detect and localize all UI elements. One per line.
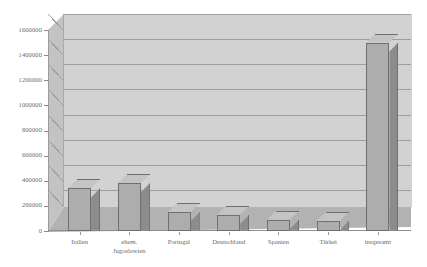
bar-front-face <box>366 43 389 231</box>
x-axis-tick <box>80 232 81 235</box>
y-axis-tick <box>44 80 49 81</box>
y-axis-tick-label: 1600000 <box>19 27 42 34</box>
gridline <box>63 140 411 141</box>
gridline <box>63 190 411 191</box>
gridline-connector <box>48 190 63 206</box>
bar-top-edge <box>375 34 398 35</box>
bar-top-edge <box>77 179 100 180</box>
y-axis-tick <box>44 105 49 106</box>
y-axis-tick-label: 0 <box>39 228 42 235</box>
x-axis-tick <box>378 232 379 235</box>
x-axis-tick <box>129 232 130 235</box>
bar-column <box>68 188 91 231</box>
y-axis-tick <box>44 30 49 31</box>
x-axis-tick-label: insgesamt <box>338 238 418 247</box>
y-axis-tick-label: 1200000 <box>19 77 42 84</box>
gridline <box>63 64 411 65</box>
gridline-connector <box>48 89 63 105</box>
bar-column <box>168 212 191 231</box>
gridline-connector <box>48 165 63 181</box>
gridline-connector <box>48 39 63 55</box>
y-axis-tick-label: 1000000 <box>19 102 42 109</box>
bar-chart: 0200000400000600000800000100000012000001… <box>0 0 427 267</box>
bar-front-face <box>317 221 340 231</box>
y-axis-tick-label: 600000 <box>22 152 42 159</box>
x-axis-labels: Italienehem.JugoslawienPortugalDeutschla… <box>48 234 411 264</box>
back-wall-panel <box>63 14 412 207</box>
bar-top-edge <box>276 211 299 212</box>
gridline <box>63 115 411 116</box>
y-axis-tick <box>44 231 49 232</box>
y-axis-tick <box>44 206 49 207</box>
bar-top-edge <box>226 206 249 207</box>
x-axis-tick <box>328 232 329 235</box>
y-axis-tick <box>44 55 49 56</box>
bar-top-edge <box>177 203 200 204</box>
gridline-connector <box>48 14 63 30</box>
bar-top-edge <box>326 212 349 213</box>
bar-front-face <box>68 188 91 231</box>
y-axis-tick <box>44 131 49 132</box>
bar-front-face <box>217 215 240 231</box>
bar-front-face <box>267 220 290 231</box>
x-axis-tick-label-line: insgesamt <box>338 238 418 247</box>
y-axis-tick <box>44 181 49 182</box>
y-axis-tick-label: 1400000 <box>19 52 42 59</box>
bar-side-face <box>389 43 398 231</box>
y-axis-tick <box>44 156 49 157</box>
bar-column <box>366 43 389 231</box>
bar-front-face <box>168 212 191 231</box>
x-axis-tick <box>278 232 279 235</box>
x-axis-tick-label-line: Jugoslawien <box>89 247 169 256</box>
y-axis-tick-label: 400000 <box>22 177 42 184</box>
bar-column <box>118 183 141 231</box>
x-axis-tick <box>229 232 230 235</box>
gridline <box>63 14 411 15</box>
plot-area: 0200000400000600000800000100000012000001… <box>48 14 411 232</box>
gridline <box>63 165 411 166</box>
bar-front-face <box>118 183 141 231</box>
y-axis-tick-label: 200000 <box>22 202 42 209</box>
gridline-connector <box>48 115 63 131</box>
gridline <box>63 39 411 40</box>
bar-top-edge <box>127 174 150 175</box>
bar-column <box>317 221 340 231</box>
bar-column <box>217 215 240 231</box>
gridline-connector <box>48 64 63 80</box>
gridline-connector <box>48 140 63 156</box>
gridline <box>63 89 411 90</box>
y-axis-tick-label: 800000 <box>22 127 42 134</box>
x-axis-tick <box>179 232 180 235</box>
bar-column <box>267 220 290 231</box>
